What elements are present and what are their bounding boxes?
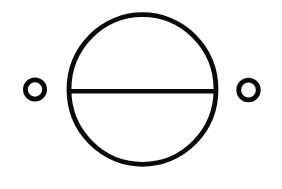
circuit-symbol-diagram [0,0,282,189]
